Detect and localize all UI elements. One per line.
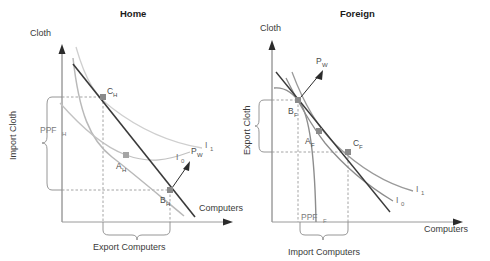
foreign-import-computers-label: Import Computers	[288, 247, 361, 257]
foreign-pw-arrow	[301, 70, 323, 97]
home-export-computers-label: Export Computers	[93, 242, 166, 252]
foreign-price-line-pw	[276, 72, 390, 212]
svg-text:PPF: PPF	[40, 125, 57, 135]
home-import-cloth-label: Import Cloth	[8, 111, 18, 160]
foreign-x-axis-label: Computers	[424, 224, 469, 234]
foreign-i0-label: I 0	[396, 195, 405, 207]
svg-text:PPF: PPF	[301, 212, 318, 222]
home-import-cloth-brace	[42, 97, 62, 190]
home-x-axis-label: Computers	[199, 203, 244, 213]
home-x-axis	[62, 219, 233, 226]
svg-text:I: I	[396, 195, 398, 205]
home-point-ch: C H	[100, 86, 117, 100]
svg-text:0: 0	[181, 158, 185, 164]
foreign-y-axis-label: Cloth	[260, 23, 281, 33]
svg-text:F: F	[311, 142, 315, 148]
svg-text:I: I	[416, 184, 418, 194]
home-indifference-curve-i1	[76, 47, 202, 148]
svg-text:0: 0	[401, 201, 405, 207]
home-y-axis-label: Cloth	[30, 28, 51, 38]
svg-text:I: I	[176, 152, 178, 162]
trade-diagram-figure: Home Cloth Computers	[0, 0, 490, 261]
svg-text:F: F	[294, 112, 298, 118]
home-panel-title: Home	[120, 8, 146, 19]
svg-text:H: H	[113, 92, 117, 98]
foreign-indifference-curve-i1	[292, 72, 413, 191]
svg-text:H: H	[166, 201, 170, 207]
trade-diagram-svg: Home Cloth Computers	[0, 0, 490, 261]
foreign-guide-lines	[272, 100, 348, 222]
foreign-pw-label: P W	[316, 56, 328, 68]
foreign-panel: Foreign Cloth Computers	[242, 8, 469, 257]
svg-text:W: W	[197, 152, 203, 158]
home-panel: Home Cloth Computers	[8, 8, 244, 252]
svg-text:F: F	[323, 218, 327, 224]
foreign-export-cloth-brace	[255, 100, 272, 152]
svg-text:W: W	[322, 62, 328, 68]
foreign-ppf-curve	[274, 88, 316, 222]
home-price-line-pw	[73, 64, 195, 217]
foreign-panel-title: Foreign	[340, 8, 375, 19]
foreign-i1-label: I 1	[416, 184, 425, 196]
foreign-export-cloth-label: Export Cloth	[242, 105, 252, 155]
svg-text:1: 1	[210, 146, 214, 152]
home-i1-label: I 1	[205, 140, 214, 152]
svg-text:H: H	[122, 167, 126, 173]
svg-text:H: H	[62, 131, 66, 137]
svg-text:I: I	[205, 140, 207, 150]
foreign-point-af: A F	[305, 128, 322, 148]
foreign-import-computers-brace	[300, 222, 348, 240]
home-pw-arrow	[172, 161, 190, 188]
home-export-computers-brace	[103, 222, 170, 240]
home-indifference-curve-i0	[60, 103, 190, 160]
svg-text:1: 1	[421, 190, 425, 196]
svg-text:F: F	[359, 144, 363, 150]
foreign-y-axis	[269, 40, 276, 222]
foreign-point-cf: C F	[345, 138, 363, 155]
